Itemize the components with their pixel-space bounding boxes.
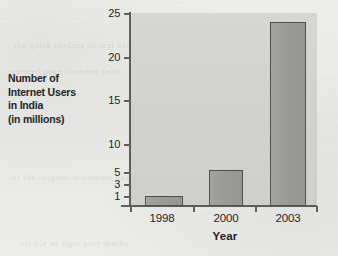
y-axis-title-line: (in millions) [8, 113, 112, 127]
y-axis-title-line: Number of [8, 72, 112, 86]
x-tick-mid-1 [193, 206, 195, 212]
y-tick-label-25: 25 [96, 8, 120, 19]
y-tick-label-5: 5 [96, 167, 120, 178]
bar-2000[interactable] [209, 170, 243, 206]
x-tick-label-2003: 2003 [262, 212, 314, 224]
x-tick-label-1998: 1998 [136, 212, 188, 224]
y-tick-label-3: 3 [96, 179, 120, 190]
x-tick-label-2000: 2000 [200, 212, 252, 224]
y-tick-25 [124, 13, 130, 15]
y-tick-5 [124, 172, 130, 174]
y-axis-line [129, 12, 131, 206]
bar-chart: Number of Internet Users in India (in mi… [0, 0, 338, 256]
y-tick-label-15: 15 [96, 95, 120, 106]
y-tick-15 [124, 100, 130, 102]
x-axis-title: Year [180, 230, 270, 242]
bar-1998[interactable] [145, 196, 183, 206]
y-tick-3 [124, 184, 130, 186]
y-tick-label-10: 10 [96, 139, 120, 150]
y-tick-20 [124, 57, 130, 59]
y-tick-label-20: 20 [96, 52, 120, 63]
x-tick-right [316, 206, 318, 212]
bar-2003[interactable] [270, 22, 306, 206]
y-tick-label-1: 1 [96, 191, 120, 202]
x-tick-mid-2 [255, 206, 257, 212]
y-tick-10 [124, 144, 130, 146]
y-tick-1 [124, 196, 130, 198]
x-tick-left [130, 206, 132, 212]
